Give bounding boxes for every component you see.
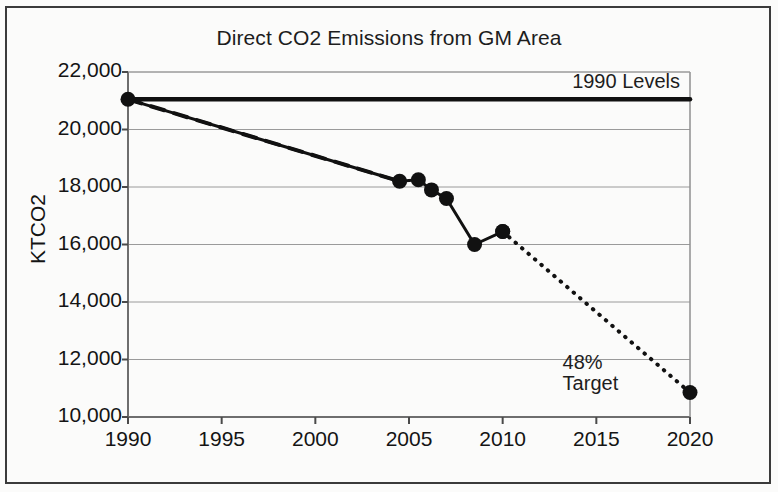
y-tick-label: 22,000 [58, 58, 122, 82]
x-tick-label: 2000 [270, 427, 360, 451]
x-tick-label: 2020 [645, 427, 735, 451]
y-tick-label: 16,000 [58, 231, 122, 255]
baseline-annotation: 1990 Levels [520, 71, 680, 92]
chart-figure: Direct CO2 Emissions from GM Area KTCO2 … [0, 0, 778, 492]
x-tick-label: 1990 [83, 427, 173, 451]
target-annotation-line1: 48% [563, 352, 619, 373]
x-tick-label: 2015 [551, 427, 641, 451]
y-tick-label: 20,000 [58, 116, 122, 140]
y-axis-title: KTCO2 [26, 194, 50, 264]
target-annotation: 48% Target [563, 352, 619, 394]
y-tick-label: 14,000 [58, 288, 122, 312]
y-tick-label: 10,000 [58, 403, 122, 427]
target-annotation-line2: Target [563, 373, 619, 394]
y-tick-label: 12,000 [58, 346, 122, 370]
gridlines [128, 72, 690, 360]
x-tick-label: 1995 [177, 427, 267, 451]
x-tick-label: 2005 [364, 427, 454, 451]
y-tick-label: 18,000 [58, 173, 122, 197]
x-tick-label: 2010 [458, 427, 548, 451]
